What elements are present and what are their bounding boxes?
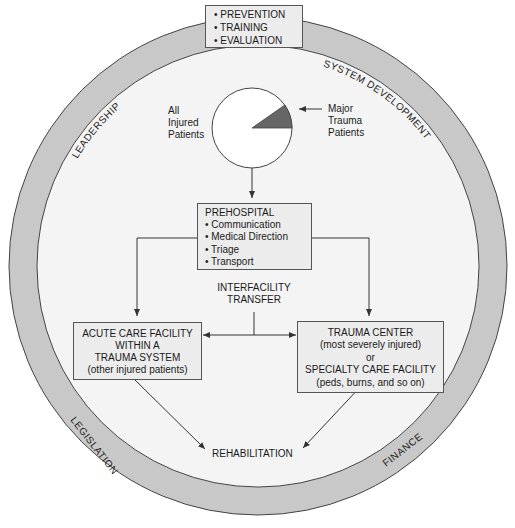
label-interfacility-transfer: INTERFACILITY TRANSFER [204,282,304,306]
item-training: • TRAINING [214,21,302,34]
item-transport: • Transport [205,256,311,268]
prehospital-box: PREHOSPITAL • Communication • Medical Di… [197,203,312,270]
item-evaluation: • EVALUATION [214,34,302,47]
item-triage: • Triage [205,244,311,256]
label-all-injured-patients: All Injured Patients [168,105,204,141]
acute-care-facility-box: ACUTE CARE FACILITY WITHIN A TRAUMA SYST… [73,322,202,380]
item-communication: • Communication [205,219,311,231]
trauma-center-box: TRAUMA CENTER (most severely injured) or… [297,321,444,393]
prevention-training-evaluation-box: • PREVENTION • TRAINING • EVALUATION [205,5,303,48]
label-major-trauma-patients: Major Trauma Patients [328,103,364,139]
label-rehabilitation: REHABILITATION [212,448,293,460]
item-medical-direction: • Medical Direction [205,231,311,243]
prehospital-title: PREHOSPITAL [205,207,311,219]
item-prevention: • PREVENTION [214,8,302,21]
